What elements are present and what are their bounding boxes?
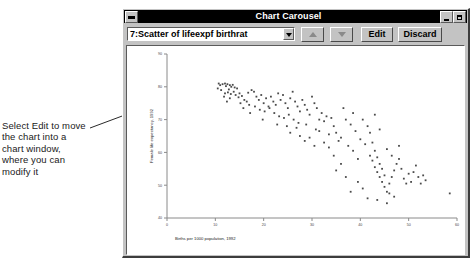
svg-text:40: 40	[358, 223, 362, 227]
chart-client-area[interactable]: 4050607080900102030405060Births per 1000…	[126, 45, 465, 255]
minimize-glyph	[444, 19, 449, 21]
edit-button[interactable]: Edit	[361, 27, 393, 42]
svg-text:80: 80	[158, 85, 162, 89]
system-menu-icon[interactable]	[125, 11, 138, 23]
svg-text:40: 40	[158, 216, 162, 220]
discard-button[interactable]: Discard	[398, 27, 442, 42]
svg-text:10: 10	[213, 223, 217, 227]
previous-chart-button[interactable]	[301, 27, 324, 42]
chevron-down-icon[interactable]	[283, 28, 294, 40]
svg-text:90: 90	[158, 52, 162, 56]
next-chart-button[interactable]	[330, 27, 353, 42]
svg-text:50: 50	[158, 184, 162, 188]
window-titlebar[interactable]: Chart Carousel	[124, 10, 467, 23]
system-menu-glyph	[128, 16, 135, 19]
chart-select-combobox[interactable]: 7:Scatter of lifeexpf birthrat	[127, 27, 295, 41]
chart-carousel-window: Chart Carousel 7:Scatter of lifeexpf bir…	[122, 8, 470, 258]
chevron-down-glyph	[286, 33, 292, 37]
chart-select-value: 7:Scatter of lifeexpf birthrat	[128, 28, 248, 40]
svg-text:70: 70	[158, 118, 162, 122]
svg-text:Female life expectancy, 1992: Female life expectancy, 1992	[149, 108, 154, 163]
minimize-icon[interactable]	[440, 11, 453, 23]
svg-text:20: 20	[262, 223, 266, 227]
svg-text:30: 30	[310, 223, 314, 227]
window-title: Chart Carousel	[138, 10, 439, 23]
maximize-glyph	[457, 15, 462, 20]
svg-text:60: 60	[455, 223, 459, 227]
arrow-down-icon	[338, 32, 346, 37]
svg-text:50: 50	[407, 223, 411, 227]
arrow-up-icon	[309, 32, 317, 37]
instruction-annotation: Select Edit to move the chart into a cha…	[2, 120, 88, 177]
svg-text:0: 0	[166, 223, 168, 227]
svg-text:60: 60	[158, 151, 162, 155]
svg-text:Births per 1000 population, 19: Births per 1000 population, 1992	[175, 236, 236, 241]
carousel-toolbar: 7:Scatter of lifeexpf birthrat Edit Disc…	[123, 23, 468, 45]
maximize-icon[interactable]	[453, 11, 466, 23]
scatter-plot: 4050607080900102030405060Births per 1000…	[127, 46, 465, 254]
